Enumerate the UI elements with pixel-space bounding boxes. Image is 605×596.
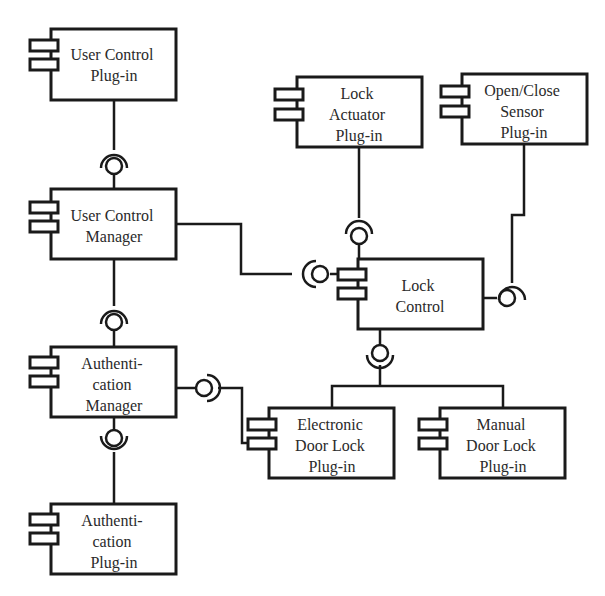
component-user-control-manager[interactable]: User Control Manager [30,189,176,259]
connector-authmanager-electronic [176,388,262,443]
connector-sensor-lockcontrol [483,144,524,298]
component-icon [441,106,469,117]
component-icon [441,86,469,97]
connector-lockcontrol-doorlocks [332,329,503,408]
provided-interface-ball [106,158,122,174]
component-icon [30,221,58,232]
component-lock-control[interactable]: Lock Control [338,259,483,329]
component-icon [30,40,58,51]
component-icon [419,438,447,449]
provided-interface-ball [351,228,367,244]
component-icon [275,109,303,120]
component-icon [30,357,58,368]
component-icon [30,533,58,544]
component-icon [419,419,447,430]
component-manual-door-lock-plugin[interactable]: Manual Door Lock Plug-in [419,408,565,478]
component-icon [248,419,276,430]
component-icon [338,288,366,299]
component-user-control-plugin[interactable]: User Control Plug-in [30,29,176,100]
component-icon [275,89,303,100]
component-icon [30,514,58,525]
provided-interface-ball [196,380,212,396]
component-icon [30,202,58,213]
component-authentication-plugin[interactable]: Authenti- cation Plug-in [30,504,176,574]
component-authentication-manager[interactable]: Authenti- cation Manager [30,347,176,417]
provided-interface-ball [372,345,388,361]
provided-interface-ball [106,314,122,330]
component-icon [248,438,276,449]
component-diagram: User Control Plug-in User Control Manage… [0,0,605,596]
provided-interface-ball [106,430,122,446]
component-lock-actuator-plugin[interactable]: Lock Actuator Plug-in [275,77,422,147]
component-open-close-sensor-plugin[interactable]: Open/Close Sensor Plug-in [441,74,587,144]
component-icon [338,269,366,280]
component-icon [30,376,58,387]
component-icon [30,59,58,70]
provided-interface-ball [312,266,328,282]
component-electronic-door-lock-plugin[interactable]: Electronic Door Lock Plug-in [248,408,394,478]
